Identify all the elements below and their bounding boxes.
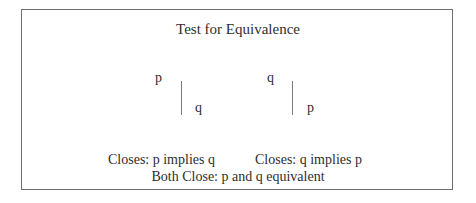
diagram-title: Test for Equivalence — [0, 21, 476, 38]
caption-both: Both Close: p and q equivalent — [0, 169, 476, 185]
right-tree-branch-line — [292, 81, 293, 115]
left-tree-premise: p — [155, 71, 162, 85]
caption-right: Closes: q implies p — [255, 152, 362, 168]
left-tree-conclusion: q — [195, 101, 202, 115]
left-tree-branch-line — [181, 81, 182, 115]
caption-left: Closes: p implies q — [108, 152, 215, 168]
right-tree-conclusion: p — [307, 101, 314, 115]
right-tree-premise: q — [267, 71, 274, 85]
